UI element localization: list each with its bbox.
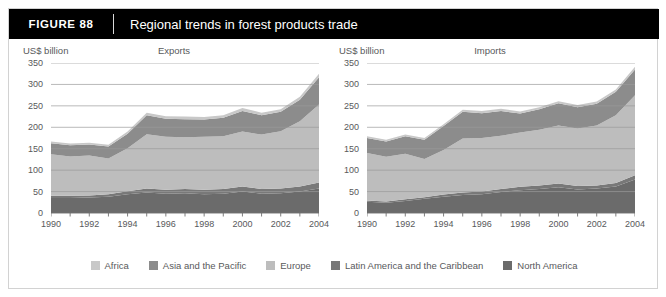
x-tick-label: 2000	[232, 219, 252, 229]
x-tick-label: 1992	[79, 219, 99, 229]
x-tick-label: 2002	[271, 219, 291, 229]
legend-item: Asia and the Pacific	[149, 260, 246, 271]
chart-imports: US$ billion Imports 05010015020025030035…	[331, 39, 649, 251]
legend-item: Africa	[91, 260, 129, 271]
x-tick-label: 2004	[309, 219, 329, 229]
chart-exports-y-axis: 050100150200250300350	[15, 63, 47, 213]
y-tick-label: 0	[354, 208, 359, 218]
x-tick-label: 1994	[434, 219, 454, 229]
chart-imports-title: Imports	[331, 45, 649, 56]
header-divider	[113, 14, 114, 34]
legend-item: North America	[503, 260, 577, 271]
y-tick-label: 50	[33, 187, 43, 197]
x-tick-label: 2000	[548, 219, 568, 229]
chart-legend: AfricaAsia and the PacificEuropeLatin Am…	[9, 255, 659, 275]
legend-label: Europe	[280, 260, 311, 271]
y-tick-label: 300	[344, 79, 359, 89]
y-tick-label: 150	[344, 144, 359, 154]
legend-item: Latin America and the Caribbean	[331, 260, 483, 271]
charts-row: US$ billion Exports 05010015020025030035…	[9, 39, 659, 251]
y-tick-label: 200	[344, 122, 359, 132]
figure-number: FIGURE 88	[9, 18, 113, 30]
legend-swatch-icon	[331, 261, 340, 270]
y-tick-label: 350	[28, 58, 43, 68]
chart-imports-x-axis: 19901992199419961998200020022004	[367, 219, 635, 235]
y-tick-label: 250	[344, 101, 359, 111]
chart-imports-plot	[367, 63, 635, 213]
y-tick-label: 300	[28, 79, 43, 89]
x-tick-label: 1998	[510, 219, 530, 229]
x-tick-label: 1990	[41, 219, 61, 229]
legend-label: Africa	[105, 260, 129, 271]
area-chart-svg	[51, 63, 319, 219]
y-tick-label: 50	[349, 187, 359, 197]
chart-imports-y-axis: 050100150200250300350	[331, 63, 363, 213]
x-tick-label: 2002	[587, 219, 607, 229]
y-tick-label: 350	[344, 58, 359, 68]
legend-label: Latin America and the Caribbean	[345, 260, 483, 271]
chart-exports-plot	[51, 63, 319, 213]
legend-label: Asia and the Pacific	[163, 260, 246, 271]
legend-swatch-icon	[503, 261, 512, 270]
legend-label: North America	[517, 260, 577, 271]
figure-header: FIGURE 88 Regional trends in forest prod…	[9, 9, 659, 39]
y-tick-label: 250	[28, 101, 43, 111]
chart-exports: US$ billion Exports 05010015020025030035…	[15, 39, 333, 251]
x-tick-label: 1996	[472, 219, 492, 229]
x-tick-label: 1998	[194, 219, 214, 229]
legend-swatch-icon	[266, 261, 275, 270]
chart-exports-title: Exports	[15, 45, 333, 56]
legend-item: Europe	[266, 260, 311, 271]
y-tick-label: 100	[28, 165, 43, 175]
y-tick-label: 200	[28, 122, 43, 132]
y-tick-label: 150	[28, 144, 43, 154]
x-tick-label: 2004	[625, 219, 645, 229]
figure-panel: FIGURE 88 Regional trends in forest prod…	[8, 8, 658, 289]
legend-swatch-icon	[149, 261, 158, 270]
x-tick-label: 1992	[395, 219, 415, 229]
y-tick-label: 100	[344, 165, 359, 175]
x-tick-label: 1990	[357, 219, 377, 229]
chart-exports-x-axis: 19901992199419961998200020022004	[51, 219, 319, 235]
legend-swatch-icon	[91, 261, 100, 270]
x-tick-label: 1994	[118, 219, 138, 229]
y-tick-label: 0	[38, 208, 43, 218]
area-chart-svg	[367, 63, 635, 219]
figure-title: Regional trends in forest products trade	[114, 17, 358, 32]
x-tick-label: 1996	[156, 219, 176, 229]
